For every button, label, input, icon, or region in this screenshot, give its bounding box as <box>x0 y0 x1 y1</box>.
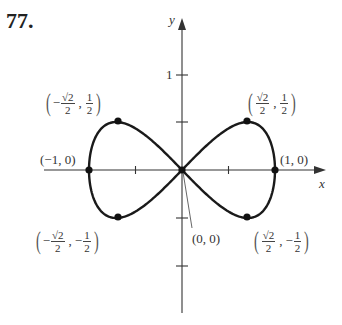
label-neg-sqrt2-half-neg-half: (− √22 ,− 12) <box>34 228 100 254</box>
label-neg1-0: (−1, 0) <box>40 152 76 168</box>
x-axis-arrow-icon <box>314 166 326 174</box>
y-tick-label-1: 1 <box>166 67 173 83</box>
y-axis-arrow-icon <box>178 18 186 30</box>
label-pos-sqrt2-half-pos-half: ( √22 , 12) <box>246 90 298 116</box>
label-origin: (0, 0) <box>192 231 220 247</box>
y-axis-label: y <box>169 12 175 28</box>
label-neg-sqrt2-half-pos-half: (− √22 , 12) <box>44 90 103 116</box>
x-axis-label: x <box>319 176 325 192</box>
label-pos-sqrt2-half-neg-half: ( √22 ,− 12) <box>252 228 311 254</box>
label-1-0: (1, 0) <box>280 152 308 168</box>
